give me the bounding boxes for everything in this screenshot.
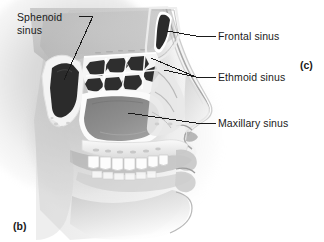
label-sphenoid-sinus-line1: Sphenoid	[17, 11, 62, 23]
label-sphenoid-sinus: Sphenoid sinus	[17, 11, 79, 36]
label-maxillary-sinus: Maxillary sinus	[218, 117, 288, 130]
figure-panel: Sphenoid sinus Frontal sinus Ethmoid sin…	[0, 0, 324, 242]
lips	[175, 149, 197, 192]
hard-palate	[82, 140, 188, 158]
label-ethmoid-sinus: Ethmoid sinus	[218, 71, 285, 84]
figure-part-marker-b: (b)	[13, 220, 26, 232]
figure-part-marker-c: (c)	[300, 59, 313, 71]
label-sphenoid-sinus-line2: sinus	[17, 24, 42, 36]
label-frontal-sinus: Frontal sinus	[218, 30, 279, 43]
